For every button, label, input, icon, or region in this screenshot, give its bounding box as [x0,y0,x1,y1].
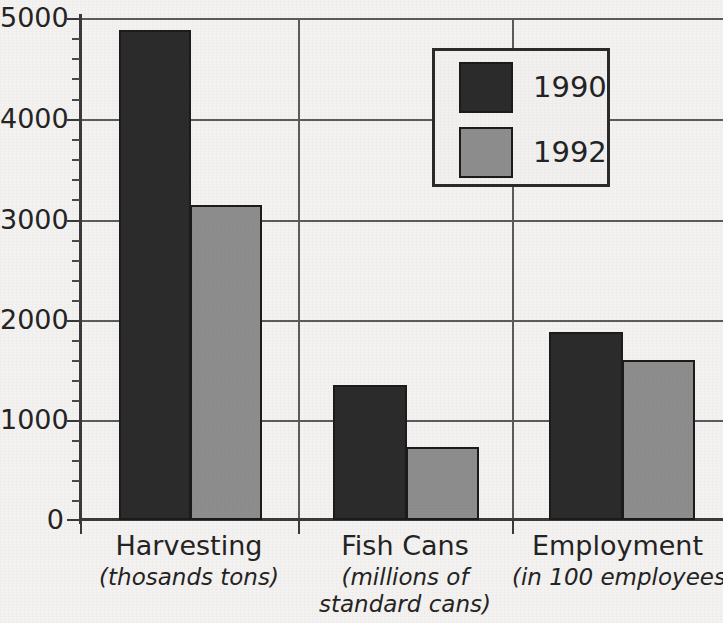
y-tick-major-2000 [67,320,81,322]
y-tick-minor [72,179,80,181]
y-tick-minor [72,58,80,60]
y-tick-major-0 [67,519,81,521]
y-tick-major-5000 [67,18,81,20]
y-axis-label-1000: 1000 [0,406,64,433]
y-axis-label-3000: 3000 [0,206,64,233]
y-axis-label-0: 0 [0,506,64,533]
y-tick-minor [72,199,80,201]
bar-employment-1990 [549,332,623,520]
y-tick-minor [72,500,80,502]
y-tick-major-1000 [67,420,81,422]
category-name-harvesting: Harvesting [80,532,298,560]
y-tick-major-3000 [67,220,81,222]
y-axis-line [79,14,82,524]
y-tick-minor [72,260,80,262]
y-tick-minor [72,240,80,242]
category-sub-fish-cans-line2: standard cans) [298,592,512,616]
category-name-employment: Employment [512,532,723,560]
y-tick-minor [72,300,80,302]
bar-employment-1992 [622,360,695,520]
y-tick-minor [72,38,80,40]
category-separator-1 [298,18,300,520]
category-label-fish-cans: Fish Cans (millions of standard cans) [298,532,512,617]
y-tick-minor [72,99,80,101]
legend-entry-1992: 1992 [435,127,607,183]
y-tick-minor [72,480,80,482]
y-tick-minor [72,139,80,141]
y-tick-minor [72,78,80,80]
y-tick-minor [72,340,80,342]
y-tick-minor [72,400,80,402]
legend-entry-1990: 1990 [435,62,607,118]
bar-fish-cans-1990 [333,385,407,520]
category-label-employment: Employment (in 100 employees) [512,532,723,589]
y-tick-minor [72,159,80,161]
y-tick-minor [72,440,80,442]
gridline-5000 [81,18,723,20]
legend-swatch-1992 [459,127,513,178]
y-tick-minor [72,360,80,362]
bar-fish-cans-1992 [406,447,479,520]
category-label-harvesting: Harvesting (thosands tons) [80,532,298,589]
legend: 1990 1992 [432,48,610,187]
legend-swatch-1990 [459,62,513,113]
category-sub-fish-cans-line1: (millions of [298,565,512,589]
y-tick-minor [72,280,80,282]
y-axis-label-2000: 2000 [0,306,64,333]
bar-harvesting-1992 [190,205,262,520]
y-tick-minor [72,460,80,462]
category-sub-harvesting: (thosands tons) [80,565,298,589]
category-name-fish-cans: Fish Cans [298,532,512,560]
y-axis-label-4000: 4000 [0,105,64,132]
y-tick-minor [72,380,80,382]
bar-chart: 5000 4000 3000 2000 1000 0 1990 1992 Har… [0,0,723,623]
legend-label-1992: 1992 [533,138,607,167]
category-sub-employment: (in 100 employees) [512,565,723,589]
y-axis-label-5000: 5000 [0,4,64,31]
y-tick-major-4000 [67,119,81,121]
bar-harvesting-1990 [119,30,191,520]
legend-label-1990: 1990 [533,73,607,102]
